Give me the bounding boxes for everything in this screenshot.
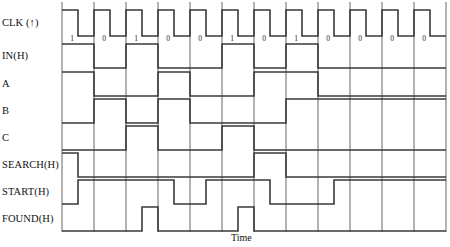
waveform-in: [62, 44, 446, 68]
timing-diagram: CLK (↑)IN(H)ABCSEARCH(H)START(H)FOUND(H)…: [0, 0, 450, 247]
bit-label: 0: [193, 35, 207, 43]
waveform-found: [62, 207, 446, 231]
bit-label: 0: [385, 35, 399, 43]
bit-label: 1: [289, 35, 303, 43]
bit-label: 0: [257, 35, 271, 43]
time-axis-label: Time: [231, 232, 252, 243]
bit-label: 0: [321, 35, 335, 43]
bit-label: 1: [65, 35, 79, 43]
bit-label: 0: [97, 35, 111, 43]
bit-label: 1: [129, 35, 143, 43]
bit-label: 0: [417, 35, 431, 43]
waveform-c: [62, 126, 446, 150]
bit-label: 0: [161, 35, 175, 43]
waveform-clk: [62, 10, 446, 36]
bit-label: 0: [353, 35, 367, 43]
waveform-search: [62, 153, 446, 177]
bit-label: 1: [225, 35, 239, 43]
waveform-a: [62, 72, 446, 96]
